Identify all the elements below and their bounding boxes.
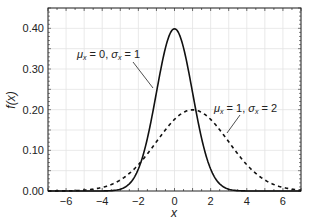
- x-tick-label: 4: [244, 195, 250, 207]
- y-tick-label: 0.40: [23, 22, 44, 34]
- grid-lines: [48, 8, 301, 191]
- y-tick-label: 0.20: [23, 104, 44, 116]
- x-tick-label: 2: [208, 195, 214, 207]
- annotation-leader-0: [133, 62, 153, 88]
- x-tick-label: −4: [96, 195, 109, 207]
- annotation-series-0: μx = 0, σx = 1: [76, 48, 140, 61]
- y-tick-labels: 0.000.100.200.300.40: [23, 22, 44, 197]
- y-axis-label: f(x): [4, 91, 18, 108]
- x-axis-label: x: [170, 206, 178, 220]
- annotation-series-1: μx = 1, σx = 2: [213, 102, 277, 115]
- chart-area: −6−4−20246 0.000.100.200.300.40 μx = 0, …: [0, 0, 309, 224]
- x-tick-label: −6: [60, 195, 73, 207]
- x-tick-label: −2: [132, 195, 145, 207]
- y-tick-label: 0.00: [23, 185, 44, 197]
- y-tick-label: 0.10: [23, 144, 44, 156]
- y-tick-label: 0.30: [23, 63, 44, 75]
- x-tick-label: 6: [280, 195, 286, 207]
